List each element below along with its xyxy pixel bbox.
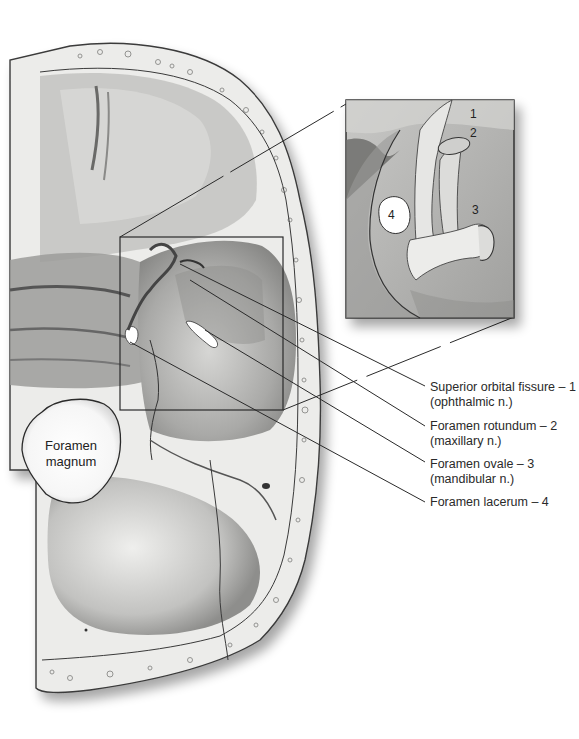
inset-number-1: 1 xyxy=(470,107,477,121)
foramen-magnum-label-line2: magnum xyxy=(31,454,111,470)
inset-number-2: 2 xyxy=(470,126,477,140)
anatomy-illustration: 4 1 2 3 Foramen magnum Superior orbital … xyxy=(0,0,579,739)
foramen-magnum-label: Foramen magnum xyxy=(31,438,111,470)
label-foramen-ovale: Foramen ovale – 3 (mandibular n.) xyxy=(430,457,534,487)
label-line1: Foramen lacerum – 4 xyxy=(430,495,549,510)
label-line2: (ophthalmic n.) xyxy=(430,395,576,410)
label-line2: (mandibular n.) xyxy=(430,472,534,487)
inset-number-3: 3 xyxy=(472,203,479,217)
label-line1: Superior orbital fissure – 1 xyxy=(430,380,576,395)
label-superior-orbital-fissure: Superior orbital fissure – 1 (ophthalmic… xyxy=(430,380,576,410)
mastoid-foramen xyxy=(262,483,270,489)
label-line1: Foramen ovale – 3 xyxy=(430,457,534,472)
skull-base-drawing: 4 1 2 3 xyxy=(0,0,579,739)
label-line2: (maxillary n.) xyxy=(430,434,557,449)
label-foramen-lacerum: Foramen lacerum – 4 xyxy=(430,495,549,510)
label-line1: Foramen rotundum – 2 xyxy=(430,419,557,434)
inset-number-4: 4 xyxy=(388,208,395,222)
sella-region xyxy=(10,253,150,389)
label-foramen-rotundum: Foramen rotundum – 2 (maxillary n.) xyxy=(430,419,557,449)
foramen-magnum-label-line1: Foramen xyxy=(31,438,111,454)
